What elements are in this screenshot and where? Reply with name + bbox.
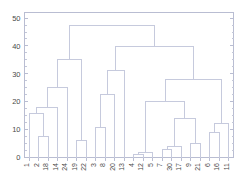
- dendrogram-link: [101, 94, 115, 157]
- leaf-label: 12: [137, 163, 144, 171]
- dendrogram-link: [162, 150, 172, 158]
- y-axis-minor-ticks: [25, 18, 234, 150]
- leaf-label: 6: [204, 163, 211, 167]
- leaf-label: 9: [185, 163, 192, 167]
- dendrogram-link: [146, 101, 185, 153]
- leaf-label: 20: [109, 163, 116, 171]
- axis-frame: [25, 13, 234, 158]
- dendrogram-link: [210, 133, 220, 158]
- leaf-label: 2: [33, 163, 40, 167]
- leaf-label: 4: [128, 163, 135, 167]
- leaf-label: 1: [23, 163, 30, 167]
- leaf-label: 17: [175, 163, 182, 171]
- leaf-label: 7: [156, 163, 163, 167]
- y-tick-label: 40: [12, 42, 20, 51]
- y-tick-label: 50: [12, 14, 20, 23]
- leaf-label: 16: [213, 163, 220, 171]
- leaf-label: 11: [223, 163, 230, 170]
- dendrogram-plot: 01020304050 1218142419223820134125730179…: [0, 0, 243, 184]
- dendrogram-link: [77, 140, 87, 157]
- dendrogram-link: [36, 107, 57, 157]
- dendrogram-link: [96, 128, 106, 158]
- leaf-label: 14: [52, 163, 59, 171]
- axis-group: [25, 13, 234, 161]
- leaf-label: 13: [118, 163, 125, 171]
- leaf-label: 5: [147, 163, 154, 167]
- y-tick-label: 0: [16, 153, 20, 162]
- dendrogram-link: [47, 88, 67, 158]
- y-axis-tick-labels: 01020304050: [12, 14, 20, 162]
- dendrogram-links: [29, 26, 229, 158]
- y-tick-label: 20: [12, 97, 20, 106]
- dendrogram-link: [39, 137, 49, 158]
- leaf-label: 21: [194, 163, 201, 171]
- leaf-labels: 12181424192238201341257301792161611: [23, 163, 230, 171]
- dendrogram-link: [57, 59, 81, 140]
- dendrogram-link: [167, 146, 181, 157]
- y-tick-label: 10: [12, 125, 20, 134]
- leaf-label: 18: [42, 163, 49, 171]
- dendrogram-link: [174, 118, 195, 146]
- leaf-label: 3: [90, 163, 97, 167]
- dendrogram-link: [29, 113, 43, 157]
- leaf-label: 30: [166, 163, 173, 171]
- dendrogram-figure: 01020304050 1218142419223820134125730179…: [0, 0, 243, 184]
- leaf-label: 22: [80, 163, 87, 171]
- dendrogram-link: [116, 47, 193, 80]
- leaf-label: 8: [99, 163, 106, 167]
- dendrogram-link: [108, 70, 125, 157]
- leaf-label: 24: [61, 163, 68, 171]
- leaf-label: 19: [71, 163, 78, 171]
- dendrogram-link: [69, 26, 154, 59]
- y-tick-label: 30: [12, 70, 20, 79]
- dendrogram-link: [215, 123, 229, 157]
- dendrogram-link: [191, 144, 201, 158]
